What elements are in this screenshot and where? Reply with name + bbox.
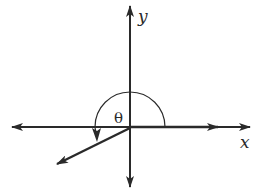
angle-diagram: y x θ: [0, 0, 262, 190]
arc-arrowhead-icon: [92, 128, 101, 142]
y-axis-label: y: [137, 6, 148, 26]
x-axis-label: x: [240, 132, 250, 152]
terminal-side: [57, 128, 130, 164]
angle-label: θ: [114, 109, 123, 127]
angle-arc: [92, 92, 165, 142]
